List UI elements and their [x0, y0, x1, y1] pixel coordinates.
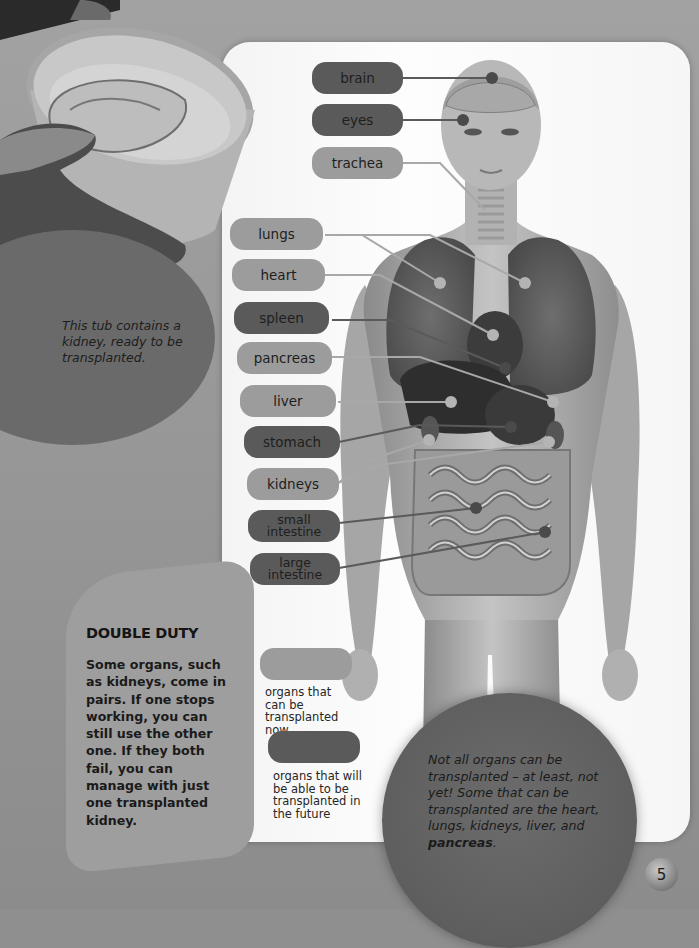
info-text-end: . [493, 835, 497, 850]
photo-caption: This tub contains a kidney, ready to be … [62, 318, 192, 366]
label-large-intestine: large intestine [250, 553, 340, 585]
legend-text-future: organs that will be able to be transplan… [273, 770, 368, 820]
label-text: trachea [332, 157, 384, 170]
label-text: eyes [342, 114, 374, 127]
label-small-intestine: small intestine [248, 510, 340, 542]
label-trachea: trachea [312, 147, 403, 179]
label-text-line2: intestine [267, 526, 322, 539]
label-text: brain [340, 72, 375, 85]
label-heart: heart [232, 259, 325, 291]
double-duty-title: DOUBLE DUTY [86, 625, 198, 641]
label-text: heart [261, 269, 297, 282]
label-brain: brain [312, 62, 403, 94]
page-number: 5 [645, 858, 678, 891]
label-pancreas: pancreas [237, 342, 332, 374]
label-text-line2: intestine [268, 569, 323, 582]
info-text: Not all organs can be transplanted – at … [428, 752, 608, 852]
label-kidneys: kidneys [247, 468, 339, 500]
legend-text-now: organs that can be transplanted now [265, 686, 355, 736]
label-text: spleen [259, 312, 304, 325]
label-text: kidneys [267, 478, 319, 491]
label-eyes: eyes [312, 104, 403, 136]
label-spleen: spleen [234, 302, 329, 334]
double-duty-body: Some organs, such as kidneys, come in pa… [86, 656, 226, 829]
label-liver: liver [240, 385, 336, 417]
label-text: pancreas [254, 352, 316, 365]
label-text: liver [273, 395, 302, 408]
label-lungs: lungs [230, 218, 323, 250]
label-text: lungs [258, 228, 294, 241]
info-text-bold: pancreas [428, 835, 493, 850]
legend-swatch-future [268, 731, 360, 763]
label-text: stomach [263, 436, 321, 449]
info-text-main: Not all organs can be transplanted – at … [428, 752, 599, 833]
label-stomach: stomach [244, 426, 340, 458]
legend-swatch-now [260, 648, 352, 680]
